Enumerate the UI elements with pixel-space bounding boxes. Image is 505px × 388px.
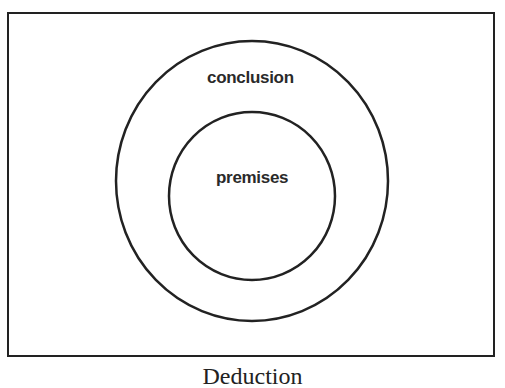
inner-circle-premises — [169, 112, 335, 280]
diagram-caption: Deduction — [0, 363, 505, 388]
premises-label: premises — [216, 168, 288, 188]
conclusion-label: conclusion — [207, 68, 294, 88]
